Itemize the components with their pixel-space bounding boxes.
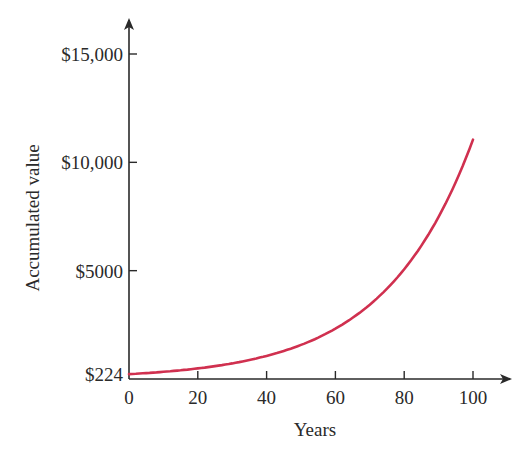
- x-tick-label: 20: [188, 387, 207, 408]
- y-axis-ticks: $224$5000$10,000$15,000: [61, 44, 137, 385]
- x-tick-label: 100: [459, 387, 488, 408]
- y-axis-title: Accumulated value: [22, 144, 43, 291]
- chart-canvas: 020406080100 $224$5000$10,000$15,000 Yea…: [0, 0, 525, 453]
- x-tick-label: 0: [124, 387, 134, 408]
- y-tick-label: $5000: [76, 261, 124, 282]
- y-tick-label: $10,000: [61, 152, 123, 173]
- x-axis-ticks: 020406080100: [124, 371, 487, 408]
- x-tick-label: 40: [257, 387, 276, 408]
- accumulated-value-curve: [129, 140, 473, 375]
- x-axis-title: Years: [294, 419, 336, 440]
- y-tick-label: $224: [85, 364, 124, 385]
- x-tick-label: 60: [326, 387, 345, 408]
- x-tick-label: 80: [395, 387, 414, 408]
- y-tick-label: $15,000: [61, 44, 123, 65]
